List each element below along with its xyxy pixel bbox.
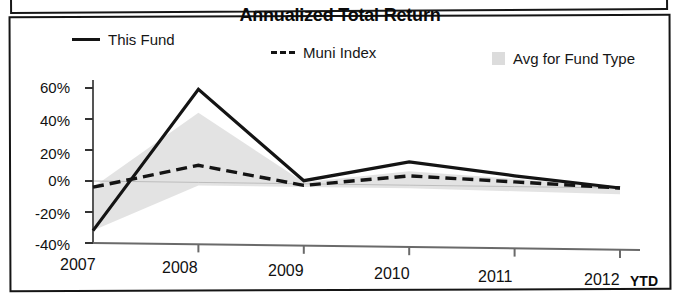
x-tick-label-2009: 2009	[268, 262, 304, 280]
x-tick-label-2011: 2011	[478, 268, 512, 286]
y-tick-label-20: 20%	[8, 145, 70, 162]
chart-container: Annualized Total Return This Fund Muni I…	[0, 0, 680, 308]
scanned-page: Annualized Total Return This Fund Muni I…	[0, 0, 680, 308]
x-tick-label-2008: 2008	[162, 259, 198, 277]
x-tick-label-2007: 2007	[60, 256, 96, 274]
x-axis-line	[93, 243, 640, 250]
y-tick-label-60: 60%	[8, 79, 70, 96]
y-tick-label-40: 40%	[8, 112, 70, 129]
y-axis-ticks	[85, 88, 93, 243]
plot-area	[0, 0, 680, 308]
y-tick-label-neg20: -20%	[8, 205, 70, 222]
y-tick-label-0: 0%	[8, 172, 70, 189]
y-tick-label-neg40: -40%	[8, 236, 70, 253]
x-tick-label-2010: 2010	[374, 265, 410, 283]
x-tick-label-2012: 2012	[584, 271, 620, 289]
ytd-label: YTD	[630, 273, 658, 289]
